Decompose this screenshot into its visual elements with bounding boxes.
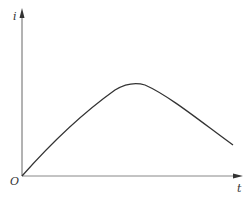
x-axis-label: t <box>237 182 242 195</box>
curve-i-of-t <box>22 84 233 176</box>
x-axis-arrow-icon <box>233 174 243 179</box>
y-axis-label: i <box>13 10 17 23</box>
y-axis-arrow-icon <box>20 8 25 18</box>
origin-label: O <box>10 175 19 188</box>
chart-canvas: i O t <box>0 0 251 199</box>
